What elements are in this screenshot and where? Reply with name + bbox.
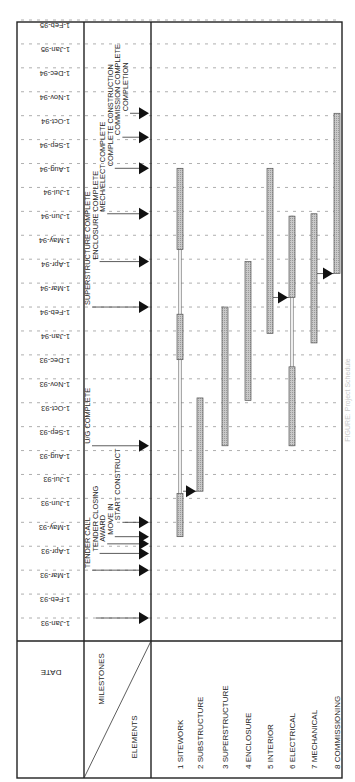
date-label: 1-Feb-93: [40, 595, 70, 604]
caption-text: FIGURE: Project Schedule: [344, 358, 352, 441]
date-label: 1-Nov-93: [40, 380, 70, 389]
milestone-arrow-icon: [139, 208, 149, 220]
task-bar: [177, 314, 183, 359]
date-label: 1-Sep-94: [40, 141, 70, 150]
milestone-arrow-icon: [139, 440, 149, 452]
task-bar: [245, 262, 251, 401]
date-label: 1-Dec-94: [40, 69, 70, 78]
milestone-label: COMPLETION: [121, 62, 130, 111]
date-label: 1-Apr-94: [41, 260, 70, 269]
task-bar: [289, 367, 295, 446]
date-label: 1-Jul-93: [43, 475, 70, 484]
milestone: COMMISSION COMPLETE: [113, 44, 149, 143]
dependency-arrow-icon: [323, 268, 333, 280]
task-bar: [289, 216, 295, 297]
milestones-header: MILESTONES: [97, 653, 106, 704]
element-bar-group: [334, 113, 340, 273]
date-label: 1-Oct-94: [41, 117, 70, 126]
milestone: U/G COMPLETE: [83, 388, 149, 452]
milestone-arrow-icon: [139, 516, 149, 528]
milestone-arrow-icon: [139, 162, 149, 174]
dependency-link: [317, 268, 334, 280]
milestone-arrow-icon: [139, 256, 149, 268]
gantt-bars: [177, 113, 340, 536]
date-label: 1-Feb-94: [40, 308, 70, 317]
date-label: 1-Aug-93: [40, 452, 70, 461]
element-bar-group: [177, 168, 183, 536]
task-bar: [334, 113, 340, 273]
milestone-label: U/G COMPLETE: [83, 388, 92, 444]
task-bar: [311, 214, 317, 343]
element-labels: 1 SITEWORK2 SUBSTRUCTURE3 SUPERSTRUCTURE…: [176, 685, 342, 769]
date-label: 1-Mar-93: [40, 571, 70, 580]
task-bar: [197, 398, 203, 491]
date-label: 1-Oct-93: [41, 404, 70, 413]
milestones: TENDER CALLTENDER CLOSINGAWARDMOVE INSTA…: [83, 44, 149, 624]
dependency-arrow-icon: [278, 291, 288, 303]
task-bar: [177, 168, 183, 249]
date-label: 1-Jun-94: [41, 212, 70, 221]
element-bar-group: [197, 398, 203, 491]
dependency-link: [273, 291, 289, 303]
date-label: 1-Aug-94: [40, 165, 70, 174]
milestone: START CONSTRUCT: [113, 448, 149, 528]
element-label: 8 COMMISSIONING: [333, 696, 342, 769]
date-axis-labels: 1-Jan-931-Feb-931-Mar-931-Apr-931-May-93…: [39, 21, 70, 628]
element-bar-group: [222, 307, 228, 446]
element-label: 6 ELECTRICAL: [288, 712, 297, 769]
element-label: 2 SUBSTRUCTURE: [196, 697, 205, 769]
task-bar: [177, 494, 183, 537]
element-bar-group: [267, 168, 273, 333]
milestone-arrow-icon: [139, 107, 149, 119]
date-label: 1-Dec-93: [40, 356, 70, 365]
task-bar: [222, 307, 228, 446]
element-label: 3 SUPERSTRUCTURE: [221, 685, 230, 769]
element-bar-group: [311, 214, 317, 343]
date-label: 1-May-94: [39, 236, 70, 245]
element-label: 7 MECHANICAL: [310, 709, 319, 769]
gantt-chart: 1-Jan-931-Feb-931-Mar-931-Apr-931-May-93…: [0, 0, 355, 782]
date-label: 1-Jan-95: [41, 45, 70, 54]
dependency-link: [183, 485, 197, 497]
date-label: 1-Nov-94: [40, 93, 70, 102]
milestone-start: [96, 612, 149, 624]
task-bar: [267, 168, 273, 333]
element-label: 5 INTERIOR: [266, 724, 275, 769]
dependency-arrow-icon: [186, 485, 196, 497]
milestone-arrow-icon: [139, 564, 149, 576]
milestone-arrow-icon: [139, 612, 149, 624]
figure-caption: FIGURE: Project Schedule: [344, 358, 352, 441]
date-label: 1-May-93: [39, 523, 70, 532]
header-diagonal: [84, 641, 151, 778]
milestone-label: START CONSTRUCT: [113, 448, 122, 520]
date-label: 1-Jan-93: [41, 619, 70, 628]
milestone-arrow-icon: [139, 301, 149, 313]
milestone: COMPLETION: [121, 62, 149, 119]
date-label: 1-Jun-93: [41, 499, 70, 508]
elements-header: ELEMENTS: [130, 715, 139, 758]
date-label: 1-Jan-94: [41, 332, 70, 341]
milestone-arrow-icon: [139, 131, 149, 143]
element-label: 4 ENCLOSURE: [244, 713, 253, 769]
element-label: 1 SITEWORK: [176, 719, 185, 769]
date-header: DATE: [41, 668, 62, 677]
date-label: 1-Sep-93: [40, 428, 70, 437]
date-label: 1-Jul-94: [43, 188, 70, 197]
date-label: 1-Apr-93: [41, 547, 70, 556]
element-bar-group: [245, 262, 251, 401]
date-label: 1-Mar-94: [40, 284, 70, 293]
milestone-arrow-icon: [139, 547, 149, 559]
table-header: DATEMILESTONESELEMENTS: [41, 653, 139, 758]
